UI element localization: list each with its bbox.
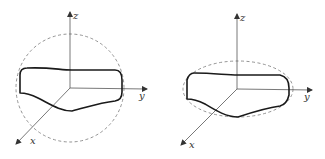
left-panel: z y x (16, 10, 147, 146)
left-z-label: z (72, 10, 79, 21)
right-x-axis (181, 89, 237, 145)
left-y-axis (70, 88, 147, 89)
right-y-label: y (303, 91, 310, 102)
left-closed-curve (20, 68, 122, 111)
right-y-axis (237, 89, 312, 90)
left-x-label: x (30, 135, 36, 146)
right-x-label: x (189, 139, 195, 150)
right-panel: z y x (181, 12, 312, 150)
left-y-label: y (138, 90, 145, 101)
diagram-figure: z y x z y x (0, 0, 325, 159)
right-z-label: z (239, 12, 246, 23)
